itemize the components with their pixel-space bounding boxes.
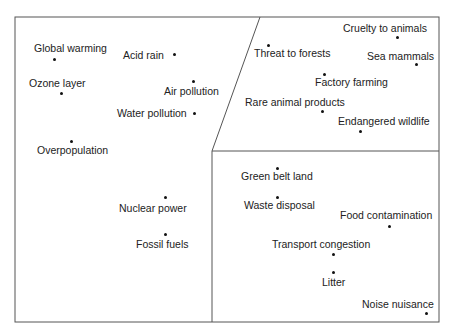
point-marker-rare-animal-products: [321, 110, 324, 113]
point-marker-green-belt-land: [276, 167, 279, 170]
label-air-pollution: Air pollution: [164, 85, 219, 97]
point-marker-cruelty-to-animals: [396, 36, 399, 39]
label-nuclear-power: Nuclear power: [119, 202, 187, 214]
label-transport-congestion: Transport congestion: [272, 238, 370, 250]
point-marker-water-pollution: [193, 112, 196, 115]
point-marker-air-pollution: [192, 80, 195, 83]
point-marker-factory-farming: [323, 73, 326, 76]
label-noise-nuisance: Noise nuisance: [362, 298, 434, 310]
point-marker-sea-mammals: [415, 63, 418, 66]
point-marker-nuclear-power: [164, 196, 167, 199]
point-marker-overpopulation: [70, 140, 73, 143]
label-food-contamination: Food contamination: [340, 209, 432, 221]
concept-map: Global warmingAcid rainOzone layerAir po…: [0, 0, 455, 335]
outer-border: [15, 17, 439, 322]
label-global-warming: Global warming: [34, 42, 107, 54]
point-marker-litter: [332, 271, 335, 274]
diagonal-divider: [212, 17, 260, 151]
label-threat-to-forests: Threat to forests: [254, 47, 330, 59]
point-marker-acid-rain: [173, 53, 176, 56]
label-green-belt-land: Green belt land: [241, 170, 313, 182]
label-rare-animal-products: Rare animal products: [245, 96, 345, 108]
label-ozone-layer: Ozone layer: [29, 77, 86, 89]
label-acid-rain: Acid rain: [123, 49, 164, 61]
label-factory-farming: Factory farming: [315, 76, 388, 88]
label-litter: Litter: [322, 276, 345, 288]
point-marker-endangered-wildlife: [359, 130, 362, 133]
label-fossil-fuels: Fossil fuels: [136, 238, 189, 250]
point-marker-food-contamination: [388, 225, 391, 228]
label-sea-mammals: Sea mammals: [367, 50, 434, 62]
point-marker-ozone-layer: [60, 92, 63, 95]
point-marker-noise-nuisance: [425, 312, 428, 315]
point-marker-fossil-fuels: [164, 233, 167, 236]
point-marker-transport-congestion: [332, 253, 335, 256]
label-endangered-wildlife: Endangered wildlife: [338, 115, 430, 127]
label-overpopulation: Overpopulation: [37, 144, 108, 156]
label-water-pollution: Water pollution: [117, 107, 187, 119]
label-waste-disposal: Waste disposal: [244, 199, 315, 211]
point-marker-global-warming: [53, 58, 56, 61]
point-marker-threat-to-forests: [267, 44, 270, 47]
label-cruelty-to-animals: Cruelty to animals: [343, 22, 427, 34]
point-marker-waste-disposal: [276, 196, 279, 199]
